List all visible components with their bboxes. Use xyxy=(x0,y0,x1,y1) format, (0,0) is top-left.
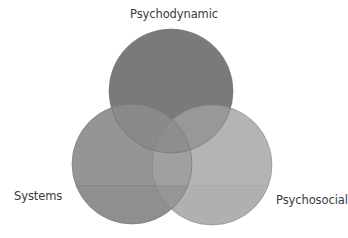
systems-label: Systems xyxy=(14,191,62,203)
psychosocial-label: Psychosocial xyxy=(276,195,348,207)
venn-diagram: Psychodynamic Systems Psychosocial xyxy=(0,0,348,238)
psychodynamic-label: Psychodynamic xyxy=(130,9,210,21)
